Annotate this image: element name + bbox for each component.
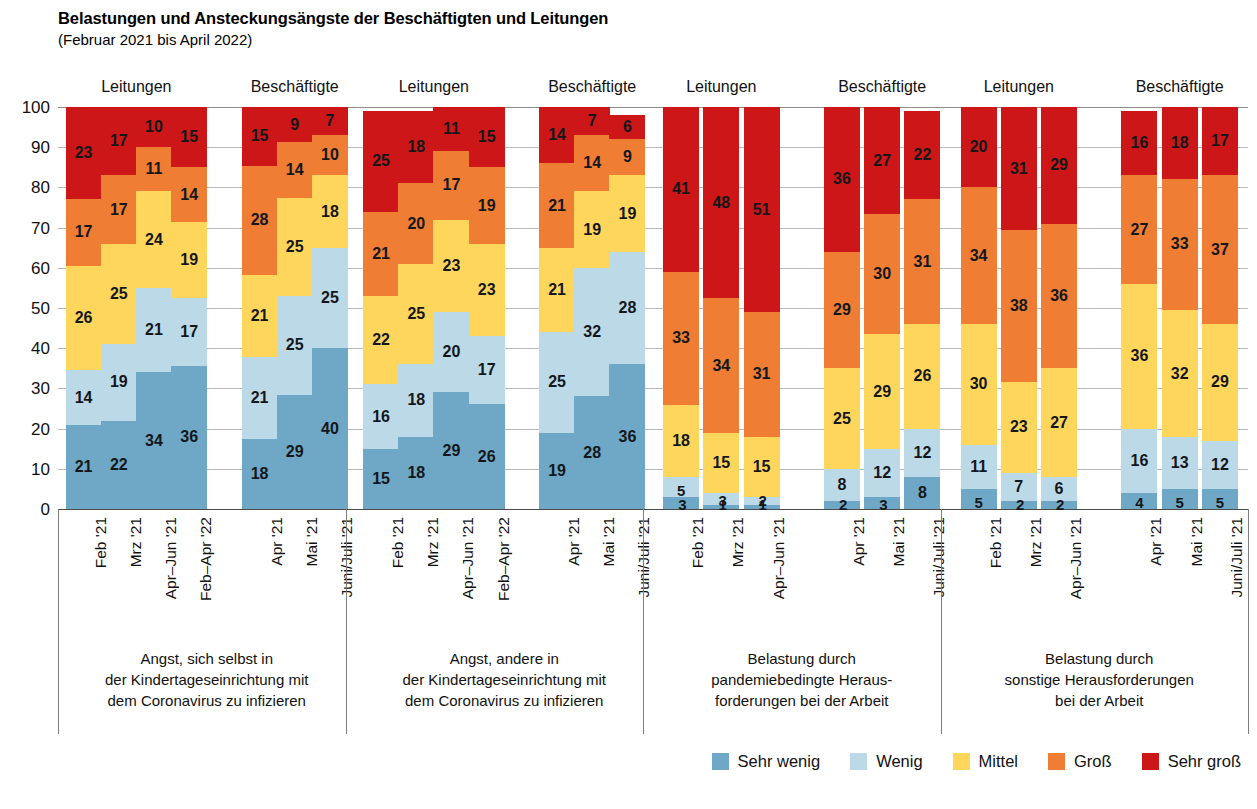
bar-segment[interactable]: 23: [66, 107, 102, 199]
bar-segment[interactable]: 11: [961, 445, 997, 489]
bar-segment[interactable]: 29: [1041, 107, 1077, 224]
stacked-bar[interactable]: 2114261723: [66, 107, 102, 509]
bar-segment[interactable]: 21: [242, 357, 278, 439]
stacked-bar[interactable]: 283219147: [574, 107, 610, 509]
bar-segment[interactable]: 10: [136, 107, 172, 147]
bar-segment[interactable]: 15: [171, 107, 207, 167]
bar-segment[interactable]: 23: [1001, 382, 1037, 474]
bar-segment[interactable]: 9: [609, 139, 645, 175]
bar-segment[interactable]: 21: [66, 425, 102, 509]
bar-segment[interactable]: 11: [433, 107, 469, 151]
stacked-bar[interactable]: 2920231711: [433, 107, 469, 509]
bar-segment[interactable]: 38: [1001, 230, 1037, 381]
bar-segment[interactable]: 30: [864, 214, 900, 333]
bar-segment[interactable]: 31: [904, 199, 940, 324]
bar-segment[interactable]: 19: [469, 167, 505, 243]
bar-segment[interactable]: 26: [469, 404, 505, 509]
stacked-bar[interactable]: 36281996: [609, 107, 645, 509]
bar-segment[interactable]: 18: [663, 405, 699, 477]
bar-segment[interactable]: 5: [1162, 489, 1198, 509]
bar-segment[interactable]: 29: [433, 392, 469, 509]
stacked-bar[interactable]: 3617191415: [171, 107, 207, 509]
stacked-bar[interactable]: 3421241110: [136, 107, 172, 509]
bar-segment[interactable]: 27: [1041, 368, 1077, 477]
bar-segment[interactable]: 18: [312, 175, 348, 247]
bar-segment[interactable]: 22: [363, 296, 399, 384]
stacked-bar[interactable]: 28252936: [824, 107, 860, 509]
stacked-bar[interactable]: 27233831: [1001, 107, 1037, 509]
bar-segment[interactable]: 17: [101, 175, 137, 243]
legend-item[interactable]: Wenig: [850, 752, 922, 771]
bar-segment[interactable]: 41: [663, 107, 699, 272]
bar-segment[interactable]: 31: [1001, 107, 1037, 230]
bar-segment[interactable]: 25: [398, 264, 434, 365]
bar-segment[interactable]: 32: [1162, 310, 1198, 437]
bar-segment[interactable]: 23: [469, 244, 505, 336]
stacked-bar[interactable]: 1821212815: [242, 107, 278, 509]
stacked-bar[interactable]: 13153448: [703, 107, 739, 509]
bar-segment[interactable]: 28: [609, 252, 645, 365]
bar-segment[interactable]: 21: [136, 288, 172, 372]
bar-segment[interactable]: 15: [469, 107, 505, 167]
stacked-bar[interactable]: 402518107: [312, 107, 348, 509]
bar-segment[interactable]: 30: [961, 324, 997, 445]
bar-segment[interactable]: 20: [961, 107, 997, 187]
bar-segment[interactable]: 6: [609, 115, 645, 139]
bar-segment[interactable]: 5: [663, 477, 699, 497]
bar-segment[interactable]: 18: [1162, 107, 1198, 179]
bar-segment[interactable]: 16: [363, 384, 399, 448]
bar-segment[interactable]: 11: [136, 147, 172, 191]
stacked-bar[interactable]: 312293027: [864, 107, 900, 509]
bar-segment[interactable]: 29: [277, 395, 313, 509]
bar-segment[interactable]: 23: [433, 220, 469, 312]
bar-segment[interactable]: 29: [864, 334, 900, 449]
bar-segment[interactable]: 14: [539, 107, 575, 163]
bar-segment[interactable]: 19: [539, 433, 575, 509]
bar-segment[interactable]: 2: [1041, 501, 1077, 509]
bar-segment[interactable]: 17: [469, 336, 505, 404]
bar-segment[interactable]: 27: [864, 107, 900, 214]
stacked-bar[interactable]: 292525149: [277, 107, 313, 509]
bar-segment[interactable]: 18: [398, 364, 434, 436]
bar-segment[interactable]: 34: [961, 187, 997, 324]
bar-segment[interactable]: 12: [904, 429, 940, 477]
stacked-bar[interactable]: 512293717: [1202, 107, 1238, 509]
bar-segment[interactable]: 21: [363, 212, 399, 296]
bar-segment[interactable]: 15: [363, 449, 399, 509]
bar-segment[interactable]: 5: [1202, 489, 1238, 509]
bar-segment[interactable]: 5: [961, 489, 997, 509]
stacked-bar[interactable]: 416362716: [1121, 107, 1157, 509]
bar-segment[interactable]: 16: [1121, 429, 1157, 493]
bar-segment[interactable]: 16: [1121, 111, 1157, 175]
legend-item[interactable]: Sehr groß: [1142, 752, 1241, 771]
stacked-bar[interactable]: 35183341: [663, 107, 699, 509]
bar-segment[interactable]: 20: [398, 183, 434, 263]
bar-segment[interactable]: 48: [703, 107, 739, 298]
legend-item[interactable]: Mittel: [953, 752, 1018, 771]
bar-segment[interactable]: 19: [171, 222, 207, 298]
bar-segment[interactable]: 3: [864, 497, 900, 509]
bar-segment[interactable]: 31: [744, 312, 780, 437]
bar-segment[interactable]: 19: [101, 344, 137, 420]
stacked-bar[interactable]: 1516222125: [363, 107, 399, 509]
bar-segment[interactable]: 15: [242, 107, 278, 166]
bar-segment[interactable]: 36: [171, 366, 207, 509]
bar-segment[interactable]: 29: [824, 252, 860, 369]
bar-segment[interactable]: 19: [609, 175, 645, 251]
bar-segment[interactable]: 40: [312, 348, 348, 509]
bar-segment[interactable]: 33: [663, 272, 699, 405]
bar-segment[interactable]: 17: [171, 298, 207, 366]
bar-segment[interactable]: 14: [574, 135, 610, 191]
bar-segment[interactable]: 28: [574, 396, 610, 509]
stacked-bar[interactable]: 12153151: [744, 107, 780, 509]
bar-segment[interactable]: 17: [433, 151, 469, 219]
bar-segment[interactable]: 51: [744, 107, 780, 312]
bar-segment[interactable]: 2: [744, 497, 780, 505]
bar-segment[interactable]: 15: [703, 433, 739, 493]
bar-segment[interactable]: 25: [101, 244, 137, 345]
bar-segment[interactable]: 13: [1162, 437, 1198, 489]
legend-item[interactable]: Sehr wenig: [712, 752, 821, 771]
bar-segment[interactable]: 20: [433, 312, 469, 392]
bar-segment[interactable]: 33: [1162, 179, 1198, 310]
stacked-bar[interactable]: 2219251717: [101, 107, 137, 509]
